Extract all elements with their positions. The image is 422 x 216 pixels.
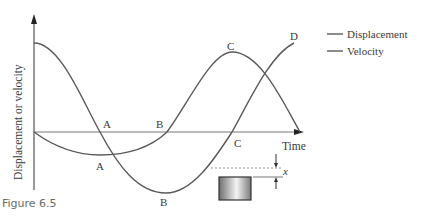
dimension-arrow-down-icon (274, 163, 278, 168)
displacement-point-c: C (234, 137, 241, 149)
legend-item-displacement: Displacement (327, 28, 407, 40)
dimension-label-x: x (282, 165, 288, 177)
displacement-curve (34, 43, 294, 193)
velocity-point-a: A (96, 160, 104, 172)
velocity-point-b: B (156, 118, 163, 130)
x-axis-label: Time (282, 140, 306, 152)
displacement-point-b: B (160, 196, 167, 208)
legend-label-velocity: Velocity (347, 45, 384, 57)
y-axis (31, 14, 37, 190)
displacement-point-a: A (103, 118, 111, 130)
y-axis-arrow-icon (31, 14, 37, 24)
legend: Displacement Velocity (327, 28, 407, 57)
mass-block (219, 177, 251, 200)
velocity-point-c: C (227, 40, 234, 52)
legend-label-displacement: Displacement (347, 28, 407, 40)
dimension-arrow-up-icon (274, 177, 278, 182)
displacement-point-d: D (290, 30, 298, 42)
figure-caption: Figure 6.5 (2, 197, 57, 210)
y-axis-label: Displacement or velocity (12, 64, 25, 180)
velocity-curve (34, 52, 300, 155)
displacement-velocity-diagram: A B C D A B C Time Displacement or veloc… (0, 0, 422, 216)
legend-item-velocity: Velocity (327, 45, 384, 57)
displacement-inset: x (211, 154, 288, 200)
